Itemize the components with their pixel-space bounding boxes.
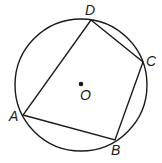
label-d: D bbox=[85, 2, 95, 18]
label-o: O bbox=[80, 87, 91, 103]
quadrilateral-abcd bbox=[23, 20, 143, 140]
center-point bbox=[79, 82, 84, 87]
diagram-canvas: D C A B O bbox=[0, 0, 162, 163]
label-a: A bbox=[8, 108, 18, 124]
label-b: B bbox=[111, 142, 120, 158]
label-c: C bbox=[146, 53, 157, 69]
